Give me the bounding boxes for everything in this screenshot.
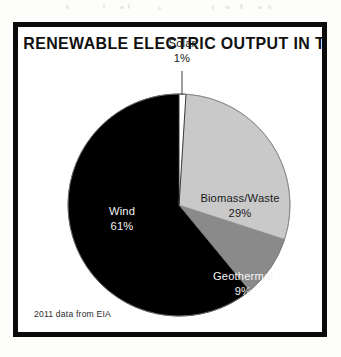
source-note: 2011 data from EIA [34, 309, 111, 319]
biomass-waste-label: Biomass/Waste [200, 192, 279, 204]
wind-label: Wind [109, 205, 135, 217]
figure-frame: RENEWABLE ELECTRIC OUTPUT IN THE U.S. [13, 22, 327, 337]
wind-value: 61% [111, 220, 134, 232]
pie-chart: Solar 1% Biomass/Waste 29% Geothermal 9%… [18, 27, 322, 332]
geothermal-label: Geothermal [213, 270, 273, 282]
solar-value: 1% [174, 52, 190, 64]
geothermal-value: 9% [235, 285, 251, 297]
figure-inner: RENEWABLE ELECTRIC OUTPUT IN THE U.S. [18, 27, 322, 332]
biomass-waste-value: 29% [229, 207, 252, 219]
scanned-page: RENEWABLE ELECTRIC OUTPUT IN THE U.S. [0, 0, 341, 357]
scan-artifact-speckles [62, 2, 282, 12]
pie-chart-svg: Solar 1% Biomass/Waste 29% Geothermal 9%… [18, 27, 322, 332]
solar-label: Solar [169, 37, 196, 49]
